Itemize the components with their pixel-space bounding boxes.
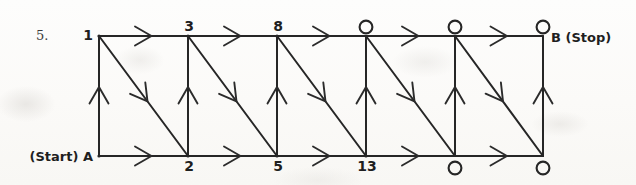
diagonal-edge-0 <box>99 36 188 156</box>
problem-number: 5. <box>36 28 48 43</box>
top-node-vertex-1[interactable] <box>186 34 189 37</box>
path-counting-diagram: 138(Start) A2513B (Stop)5. <box>0 0 636 185</box>
diagonal-edge-1 <box>188 36 277 156</box>
diagonal-edge-2 <box>277 36 366 156</box>
stop-label: B (Stop) <box>551 30 611 45</box>
diagonal-edge-3 <box>366 36 455 156</box>
scanned-worksheet-page: 138(Start) A2513B (Stop)5. <box>0 0 636 185</box>
diagonal-edge-4 <box>455 36 543 156</box>
top-node-vertex-2[interactable] <box>275 34 278 37</box>
bottom-node-circle-5[interactable] <box>537 162 550 175</box>
top-node-circle-5[interactable] <box>537 21 550 34</box>
top-node-vertex-0[interactable] <box>97 34 100 37</box>
bottom-node-vertex-0[interactable] <box>97 154 100 157</box>
top-node-label-2: 8 <box>273 18 283 34</box>
bottom-node-label-1: 2 <box>184 158 194 174</box>
bottom-node-label-3: 13 <box>357 158 376 174</box>
bottom-node-label-0: (Start) A <box>30 149 93 164</box>
top-node-label-0: 1 <box>83 27 93 43</box>
top-node-circle-3[interactable] <box>360 21 373 34</box>
top-node-circle-4[interactable] <box>449 21 462 34</box>
bottom-node-circle-4[interactable] <box>449 162 462 175</box>
top-node-label-1: 3 <box>184 18 194 34</box>
bottom-node-label-2: 5 <box>273 158 283 174</box>
